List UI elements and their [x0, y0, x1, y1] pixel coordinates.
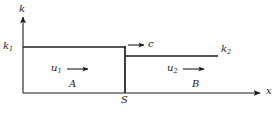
step-label-s: S: [121, 95, 128, 105]
k-axis-label: k: [19, 4, 25, 14]
velocity-label-u1: u1: [51, 63, 62, 74]
x-axis-label: x: [266, 86, 272, 96]
velocity-label-u2: u2: [167, 63, 178, 74]
velocity-label-u2-subscript: 2: [173, 67, 177, 75]
step-profile-diagram: k x k1 k2 c u1 u2 A B S: [0, 0, 277, 115]
shock-speed-label-c: c: [148, 39, 154, 49]
level-label-k1-subscript: 1: [9, 45, 13, 53]
level-label-k2-subscript: 2: [227, 48, 231, 56]
velocity-label-u1-subscript: 1: [57, 67, 61, 75]
level-label-k2: k2: [221, 44, 231, 55]
region-label-a: A: [69, 79, 76, 89]
region-label-b: B: [192, 79, 199, 89]
diagram-canvas: [0, 0, 277, 115]
level-label-k1: k1: [3, 41, 13, 52]
